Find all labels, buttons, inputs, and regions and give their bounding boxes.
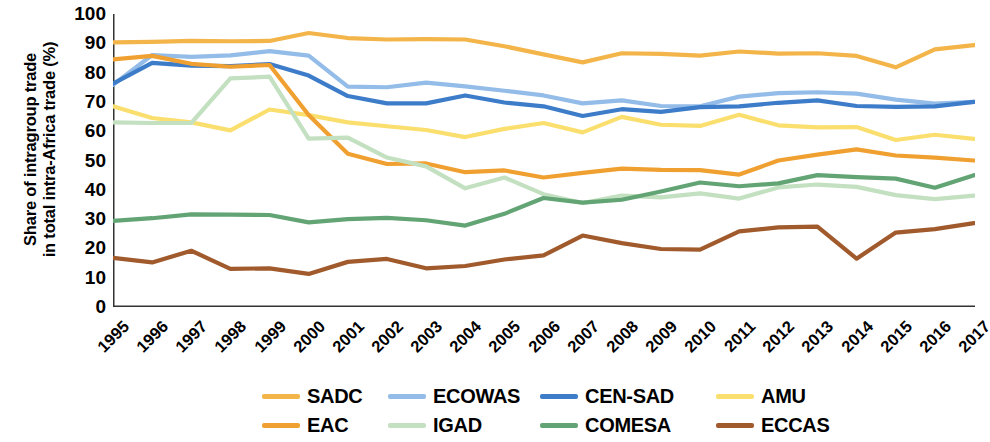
x-axis-tick-label: 2001 (329, 317, 368, 356)
legend-swatch-icon (262, 423, 300, 428)
x-axis-tick-label: 2000 (289, 317, 328, 356)
legend-label: EAC (307, 414, 348, 437)
legend-label: ECOWAS (433, 385, 520, 408)
legend-swatch-icon (388, 394, 426, 399)
legend-swatch-icon (716, 423, 754, 428)
x-axis-tick-label: 2016 (916, 317, 955, 356)
legend-item-eccas[interactable]: ECCAS (716, 411, 846, 440)
x-axis-tick-label: 2015 (876, 317, 915, 356)
legend-swatch-icon (540, 423, 578, 428)
x-axis-tick-label: 2011 (721, 317, 760, 356)
x-axis-tick-label: 2002 (368, 317, 407, 356)
x-axis-tick-labels: 1995199619971998199920002001200220032004… (0, 0, 990, 442)
legend-item-eac[interactable]: EAC (262, 411, 388, 440)
chart-figure: Share of intragroup trade in total intra… (0, 0, 990, 442)
x-axis-tick-label: 2004 (446, 317, 485, 356)
x-axis-tick-label: 2006 (524, 317, 563, 356)
x-axis-tick-label: 2007 (563, 317, 602, 356)
legend-swatch-icon (388, 423, 426, 428)
legend-item-igad[interactable]: IGAD (388, 411, 540, 440)
x-axis-tick-label: 2008 (603, 317, 642, 356)
legend-item-cen-sad[interactable]: CEN-SAD (540, 382, 716, 411)
x-axis-tick-label: 2009 (642, 317, 681, 356)
x-axis-tick-label: 2017 (955, 317, 990, 356)
x-axis-tick-label: 2013 (798, 317, 837, 356)
legend-swatch-icon (262, 394, 300, 399)
legend-label: SADC (307, 385, 362, 408)
x-axis-tick-label: 1997 (172, 317, 211, 356)
legend-item-sadc[interactable]: SADC (262, 382, 388, 411)
legend-label: IGAD (433, 414, 482, 437)
x-axis-tick-label: 2014 (837, 317, 876, 356)
legend-item-comesa[interactable]: COMESA (540, 411, 716, 440)
x-axis-tick-label: 2010 (681, 317, 720, 356)
x-axis-tick-label: 2003 (407, 317, 446, 356)
x-axis-tick-label: 2005 (485, 317, 524, 356)
legend-swatch-icon (716, 394, 754, 399)
legend-item-amu[interactable]: AMU (716, 382, 846, 411)
legend-swatch-icon (540, 394, 578, 399)
chart-legend: SADCECOWASCEN-SADAMUEACIGADCOMESAECCAS (262, 382, 922, 440)
legend-label: ECCAS (761, 414, 830, 437)
legend-item-ecowas[interactable]: ECOWAS (388, 382, 540, 411)
x-axis-tick-label: 2012 (759, 317, 798, 356)
x-axis-tick-label: 1996 (133, 317, 172, 356)
legend-label: AMU (761, 385, 806, 408)
x-axis-tick-label: 1995 (94, 317, 133, 356)
x-axis-tick-label: 1999 (250, 317, 289, 356)
legend-label: COMESA (585, 414, 671, 437)
x-axis-tick-label: 1998 (211, 317, 250, 356)
legend-label: CEN-SAD (585, 385, 674, 408)
